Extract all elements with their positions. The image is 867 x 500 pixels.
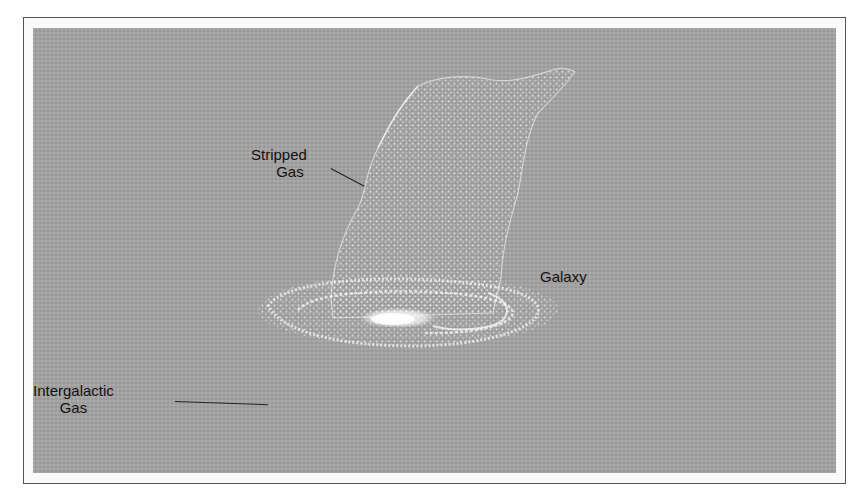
stripped-gas-label-line2: Gas [273, 163, 307, 180]
galaxy-disk [258, 274, 558, 346]
intergalactic-gas-label-line1: Intergalactic [33, 382, 114, 399]
stripped-gas-label-line1: Stripped [251, 146, 307, 163]
galaxy-illustration [33, 28, 836, 473]
galaxy-label: Galaxy [540, 268, 587, 285]
illustration-panel [33, 28, 836, 473]
intergalactic-gas-label: Intergalactic Gas [33, 382, 114, 416]
intergalactic-gas-label-line2: Gas [33, 399, 114, 416]
stripped-gas-label: Stripped Gas [251, 146, 307, 180]
